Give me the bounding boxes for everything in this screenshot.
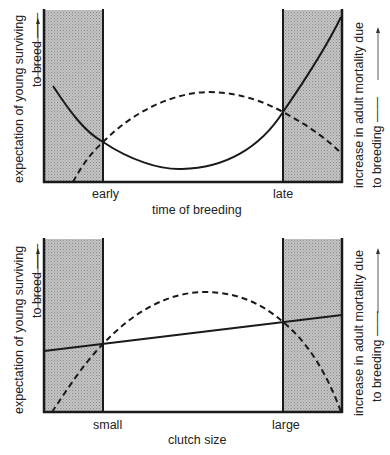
y-label-right-line1: increase in adult mortality due — [350, 246, 368, 416]
chart-plot-area — [0, 0, 390, 228]
y-label-left-line1: expectation of young surviving — [10, 13, 28, 183]
y-label-left-line2: to breed —— — [28, 244, 46, 414]
y-axis-label-left: expectation of young surviving to breed … — [10, 244, 46, 414]
x-axis-title: clutch size — [168, 433, 226, 447]
y-axis-label-right: increase in adult mortality due to breed… — [350, 18, 386, 188]
y-label-left-line1: expectation of young surviving — [10, 244, 28, 414]
chart-clutch-size: expectation of young surviving to breed … — [0, 228, 390, 455]
y-label-right-line2: to breeding —— — [368, 18, 386, 188]
chart-time-of-breeding: expectation of young surviving to breed … — [0, 0, 390, 228]
y-label-left-line2: to breed —— — [28, 13, 46, 183]
y-axis-label-left: expectation of young surviving to breed … — [10, 13, 46, 183]
shaded-region-large — [283, 239, 342, 412]
y-axis-label-right: increase in adult mortality due to breed… — [350, 246, 386, 416]
y-label-right-line2: to breeding —— — [368, 246, 386, 416]
y-label-right-line1: increase in adult mortality due — [350, 18, 368, 188]
tick-label-large: large — [272, 418, 300, 432]
shaded-region-late — [283, 10, 342, 182]
tick-label-early: early — [92, 187, 119, 201]
tick-label-late: late — [273, 187, 293, 201]
chart-plot-area — [0, 228, 390, 455]
shaded-region-early — [44, 10, 103, 182]
x-axis-title: time of breeding — [152, 203, 242, 217]
shaded-region-small — [44, 239, 103, 412]
tick-label-small: small — [93, 418, 122, 432]
